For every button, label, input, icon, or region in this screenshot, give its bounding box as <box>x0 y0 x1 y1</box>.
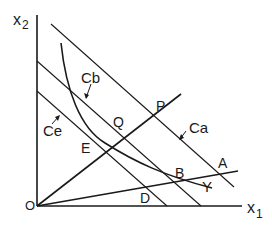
cb-arrowhead-icon <box>84 93 89 99</box>
isocost-line-ca <box>51 24 234 187</box>
isoquant-curve-y <box>61 43 212 188</box>
y-axis-label: x <box>13 11 21 28</box>
origin-label: O <box>25 198 35 213</box>
isocost-diagram: x 2 x 1 O Ca Cb Ce Y P Q E A B D <box>0 0 272 230</box>
point-d-label: D <box>140 190 150 206</box>
point-e-label: E <box>81 140 90 156</box>
y-axis-subscript: 2 <box>22 18 29 32</box>
ce-label: Ce <box>43 122 62 139</box>
x-axis-label: x <box>247 199 255 216</box>
curve-y-label: Y <box>202 178 212 195</box>
isocost-line-ce <box>37 91 167 206</box>
point-q-label: Q <box>113 114 124 130</box>
ca-label: Ca <box>189 119 209 136</box>
cb-label: Cb <box>81 69 100 86</box>
x-axis-subscript: 1 <box>256 207 263 221</box>
point-p-label: P <box>156 98 165 114</box>
point-a-label: A <box>218 155 228 171</box>
point-b-label: B <box>175 165 184 181</box>
